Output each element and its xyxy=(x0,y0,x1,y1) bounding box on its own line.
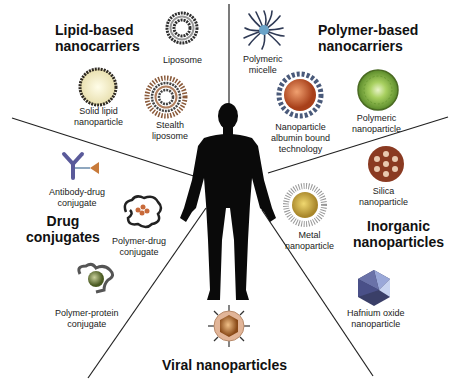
human-silhouette-icon xyxy=(178,100,278,305)
stealth-liposome-icon xyxy=(143,74,189,120)
category-title-viral: Viral nanoparticles xyxy=(162,357,287,373)
category-title-polymer: Polymer-based nanocarriers xyxy=(318,22,418,54)
metal-nanoparticle-icon xyxy=(283,183,327,227)
viral-nanoparticle-icon xyxy=(206,303,252,349)
solid-lipid-nanoparticle-icon xyxy=(77,66,119,108)
polymer-drug-conjugate-icon xyxy=(120,192,166,230)
category-title-drug-conjugates: Drug conjugates xyxy=(26,213,100,245)
antibody-drug-conjugate-icon xyxy=(58,150,104,182)
liposome-icon xyxy=(164,10,200,46)
label-polymer-protein-conjugate: Polymer-protein conjugate xyxy=(55,308,119,330)
label-stealth-liposome: Stealth liposome xyxy=(152,120,188,142)
label-solid-lipid-nanoparticle: Solid lipid nanoparticle xyxy=(74,106,123,128)
category-title-inorganic: Inorganic nanoparticles xyxy=(353,218,444,250)
polymeric-nanoparticle-icon xyxy=(355,67,401,113)
label-antibody-drug-conjugate: Antibody-drug conjugate xyxy=(49,187,105,209)
label-silica-nanoparticle: Silica nanoparticle xyxy=(359,186,408,208)
polymer-protein-conjugate-icon xyxy=(74,262,118,296)
nanoparticle-albumin-bound-icon xyxy=(275,70,325,120)
label-liposome: Liposome xyxy=(163,55,202,66)
polymeric-micelle-icon xyxy=(242,8,286,52)
label-polymeric-nanoparticle: Polymeric nanoparticle xyxy=(352,113,401,135)
label-metal-nanoparticle: Metal nanoparticle xyxy=(285,230,334,252)
label-hafnium-oxide-nanoparticle: Hafnium oxide nanoparticle xyxy=(347,308,405,330)
hafnium-oxide-nanoparticle-icon xyxy=(355,268,393,308)
silica-nanoparticle-icon xyxy=(366,144,406,184)
label-nanoparticle-albumin-bound-technology: Nanoparticle albumin bound technology xyxy=(271,122,330,155)
category-title-lipid: Lipid-based nanocarriers xyxy=(55,22,140,54)
label-polymer-drug-conjugate: Polymer-drug conjugate xyxy=(112,236,166,258)
